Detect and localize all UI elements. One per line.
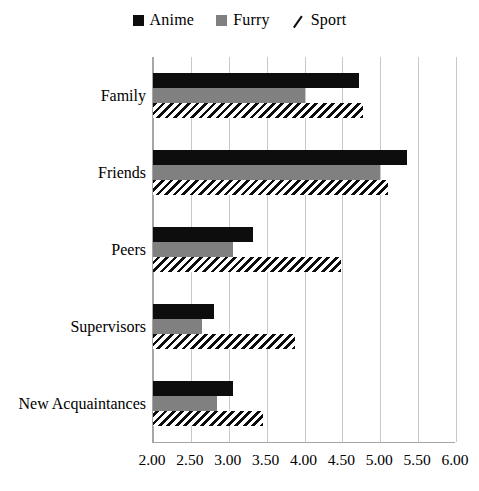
x-tick-label: 4.50 [328, 452, 355, 468]
bar-anime-new-acquaintances [153, 381, 233, 396]
x-tick-label: 3.00 [214, 452, 241, 468]
bar-chart: Anime Furry Sport FamilyFriendsPeersSupe… [0, 0, 479, 491]
bar-furry-family [153, 88, 305, 103]
bar-furry-peers [153, 242, 233, 257]
chart-legend: Anime Furry Sport [0, 12, 479, 28]
bar-group [153, 304, 455, 350]
category-label: Family [0, 88, 146, 104]
legend-item-sport: Sport [292, 12, 347, 28]
category-label: Friends [0, 165, 146, 181]
gridline [456, 57, 457, 442]
bar-furry-supervisors [153, 319, 202, 334]
category-label: Supervisors [0, 319, 146, 335]
bar-sport-new-acquaintances [153, 411, 263, 426]
bar-anime-supervisors [153, 304, 214, 319]
bar-sport-peers [153, 257, 341, 272]
diagonal-hatch-icon [292, 14, 305, 27]
x-tick-label: 5.00 [366, 452, 393, 468]
solid-gray-square-icon [216, 15, 227, 26]
x-tick-label: 2.00 [138, 452, 165, 468]
legend-label-sport: Sport [311, 12, 347, 28]
bar-anime-family [153, 73, 359, 88]
bar-sport-family [153, 103, 363, 118]
bar-furry-friends [153, 165, 380, 180]
x-tick-label: 6.00 [441, 452, 468, 468]
x-tick-label: 4.00 [290, 452, 317, 468]
solid-dark-square-icon [133, 15, 144, 26]
bar-group [153, 150, 455, 196]
bar-furry-new-acquaintances [153, 396, 217, 411]
x-tick-label: 2.50 [176, 452, 203, 468]
bar-group [153, 227, 455, 273]
legend-item-anime: Anime [133, 12, 195, 28]
x-tick-label: 5.50 [404, 452, 431, 468]
bar-group [153, 381, 455, 427]
bar-sport-supervisors [153, 334, 295, 349]
legend-item-furry: Furry [216, 12, 270, 28]
bar-group [153, 73, 455, 119]
bar-anime-friends [153, 150, 407, 165]
bar-anime-peers [153, 227, 253, 242]
legend-label-anime: Anime [150, 12, 195, 28]
legend-label-furry: Furry [233, 12, 270, 28]
x-tick-label: 3.50 [252, 452, 279, 468]
category-label: New Acquaintances [0, 396, 146, 412]
category-label: Peers [0, 242, 146, 258]
plot-area [152, 57, 455, 443]
bar-sport-friends [153, 180, 388, 195]
